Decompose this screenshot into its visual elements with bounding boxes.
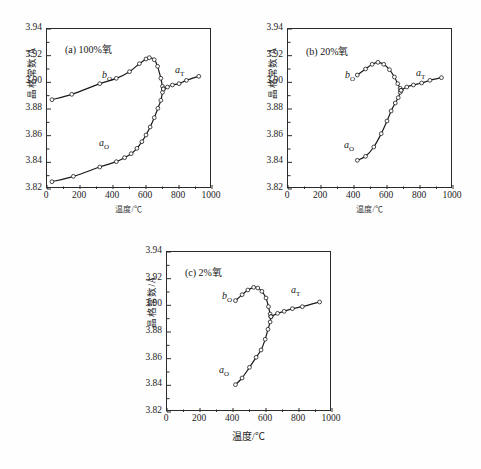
data-point-marker [234, 299, 238, 303]
data-point-marker [372, 145, 376, 149]
data-point-marker [440, 76, 444, 80]
x-tick-label: 0 [44, 190, 49, 201]
y-tick-label: 3.88 [266, 103, 283, 113]
data-point-marker [376, 60, 380, 64]
data-curve-a-o [357, 90, 401, 160]
y-tick-labels-b: 3.823.843.863.883.903.923.94 [251, 28, 285, 188]
data-point-marker [248, 365, 252, 369]
data-point-marker [254, 355, 258, 359]
x-axis-label-a: 温度/℃ [46, 203, 211, 214]
curve-label-at-c: aT [291, 284, 300, 298]
data-point-marker [412, 83, 416, 87]
x-tick-labels-c: 02004006008001000 [166, 413, 331, 427]
data-point-marker [259, 348, 263, 352]
data-point-marker [140, 140, 144, 144]
data-point-marker [420, 81, 424, 85]
data-point-marker [147, 56, 151, 60]
data-point-marker [318, 300, 322, 304]
panel-title-b: (b) 20%氧 [306, 43, 349, 58]
y-tick-label: 3.90 [145, 300, 162, 310]
y-tick-label: 3.86 [266, 130, 283, 140]
data-point-marker [114, 76, 118, 80]
plot-area-a: (a) 100%氧 bO aO aT [46, 28, 211, 188]
data-curve-b-o [235, 287, 270, 316]
data-point-marker [161, 87, 165, 91]
data-point-marker [129, 152, 133, 156]
x-axis-label-b: 温度/℃ [287, 203, 452, 214]
x-tick-label: 0 [285, 190, 290, 201]
data-point-marker [276, 311, 280, 315]
data-point-marker [70, 92, 74, 96]
x-tick-label: 200 [313, 190, 327, 201]
data-point-marker [114, 160, 118, 164]
data-point-marker [185, 78, 189, 82]
x-tick-label: 400 [346, 190, 360, 201]
data-point-marker [123, 156, 127, 160]
y-tick-label: 3.84 [266, 157, 283, 167]
y-tick-label: 3.94 [25, 23, 42, 33]
data-point-marker [266, 327, 270, 331]
data-point-marker [269, 315, 273, 319]
y-tick-label: 3.82 [25, 183, 42, 193]
x-tick-label: 1000 [443, 190, 462, 201]
y-tick-label: 3.82 [266, 183, 283, 193]
y-tick-label: 3.84 [25, 157, 42, 167]
curve-label-ao-b: aO [344, 139, 354, 153]
data-point-marker [135, 146, 139, 150]
data-point-marker [152, 116, 156, 120]
panel-a: 晶格常数/Å 3.823.843.863.883.903.923.94 (a) … [0, 14, 240, 229]
data-point-marker [128, 70, 132, 74]
y-tick-label: 3.86 [145, 353, 162, 363]
curve-label-ao-a: aO [99, 137, 109, 151]
x-tick-label: 600 [379, 190, 393, 201]
data-point-marker [396, 96, 400, 100]
data-point-marker [50, 180, 54, 184]
x-tick-label: 200 [192, 413, 206, 424]
x-axis-label-c: 温度/℃ [166, 428, 331, 443]
y-tick-labels-a: 3.823.843.863.883.903.923.94 [10, 28, 44, 188]
curve-label-bo-c: bO [222, 290, 232, 304]
x-tick-label: 1000 [202, 190, 221, 201]
curve-label-at-a: aT [175, 64, 184, 78]
data-point-marker [264, 296, 268, 300]
y-tick-label: 3.82 [145, 406, 162, 416]
data-point-marker [260, 289, 264, 293]
data-point-marker [291, 307, 295, 311]
data-point-marker [355, 73, 359, 77]
y-tick-label: 3.84 [145, 380, 162, 390]
y-tick-label: 3.92 [266, 50, 283, 60]
data-point-marker [389, 109, 393, 113]
x-tick-label: 0 [164, 413, 169, 424]
x-tick-label: 800 [412, 190, 426, 201]
data-point-marker [171, 83, 175, 87]
y-tick-label: 3.94 [145, 246, 162, 256]
data-point-marker [256, 286, 260, 290]
data-point-marker [156, 106, 160, 110]
plot-area-b: (b) 20%氧 bO aO aT [287, 28, 452, 188]
data-point-marker [166, 85, 170, 89]
data-point-marker [382, 62, 386, 66]
data-point-marker [385, 119, 389, 123]
data-point-marker [393, 75, 397, 79]
y-tick-label: 3.92 [25, 50, 42, 60]
data-point-marker [240, 293, 244, 297]
x-tick-label: 400 [225, 413, 239, 424]
data-point-marker [263, 337, 267, 341]
x-tick-label: 200 [72, 190, 86, 201]
x-tick-label: 400 [105, 190, 119, 201]
y-tick-label: 3.88 [25, 103, 42, 113]
data-point-marker [152, 58, 156, 62]
data-point-marker [355, 158, 359, 162]
data-point-marker [159, 76, 163, 80]
data-point-marker [399, 88, 403, 92]
data-point-marker [267, 305, 271, 309]
panel-title-c: (c) 2%氧 [185, 264, 222, 279]
x-tick-label: 800 [291, 413, 305, 424]
data-point-marker [252, 285, 256, 289]
data-point-marker [364, 67, 368, 71]
data-point-marker [98, 165, 102, 169]
curve-label-bo-a: bO [102, 69, 112, 83]
figure-root: 晶格常数/Å 3.823.843.863.883.903.923.94 (a) … [0, 0, 481, 469]
panel-title-a: (a) 100%氧 [65, 41, 112, 56]
y-tick-label: 3.90 [25, 77, 42, 87]
